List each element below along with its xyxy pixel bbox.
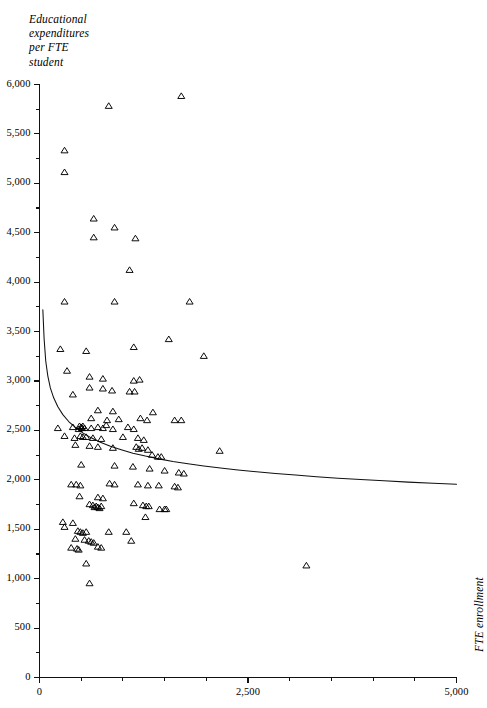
data-point-marker bbox=[115, 416, 122, 422]
data-point-marker bbox=[186, 298, 193, 304]
data-point-marker bbox=[81, 537, 88, 543]
y-tick-label: 1,000 bbox=[0, 572, 31, 583]
data-point-marker bbox=[90, 215, 97, 221]
y-tick-label: 3,000 bbox=[0, 374, 31, 385]
data-point-marker bbox=[88, 415, 95, 421]
data-point-marker bbox=[119, 434, 126, 440]
data-point-marker bbox=[86, 384, 93, 390]
y-tick-label: 5,000 bbox=[0, 176, 31, 187]
data-point-marker bbox=[105, 529, 112, 535]
data-point-marker bbox=[54, 425, 61, 431]
data-point-marker bbox=[86, 443, 93, 449]
data-point-marker bbox=[98, 436, 105, 442]
data-point-marker bbox=[109, 426, 116, 432]
data-point-marker bbox=[83, 560, 90, 566]
y-tick-label: 2,000 bbox=[0, 473, 31, 484]
data-point-marker bbox=[200, 353, 207, 359]
data-point-marker bbox=[216, 448, 223, 454]
data-point-marker bbox=[61, 433, 68, 439]
data-point-marker bbox=[155, 482, 162, 488]
data-point-marker bbox=[77, 482, 84, 488]
data-point-marker bbox=[57, 346, 64, 352]
data-point-marker bbox=[78, 462, 85, 468]
data-point-marker bbox=[142, 514, 149, 520]
data-point-marker bbox=[165, 336, 172, 342]
data-point-marker bbox=[128, 538, 135, 544]
data-point-marker bbox=[94, 444, 101, 450]
y-tick-label: 500 bbox=[0, 621, 31, 632]
data-point-marker bbox=[111, 224, 118, 230]
data-point-marker bbox=[126, 267, 133, 273]
data-point-marker bbox=[144, 482, 151, 488]
y-tick-label: 1,500 bbox=[0, 522, 31, 533]
y-tick-label: 0 bbox=[0, 671, 31, 682]
data-point-marker bbox=[69, 391, 76, 397]
data-point-marker bbox=[104, 417, 111, 423]
fit-curve-line bbox=[43, 310, 457, 484]
data-point-marker bbox=[171, 417, 178, 423]
data-point-marker bbox=[109, 387, 116, 393]
y-tick-label: 3,500 bbox=[0, 325, 31, 336]
data-point-marker bbox=[99, 385, 106, 391]
data-point-marker bbox=[111, 463, 118, 469]
data-point-marker bbox=[72, 442, 79, 448]
data-point-marker bbox=[111, 298, 118, 304]
data-point-marker bbox=[64, 368, 71, 374]
data-point-marker bbox=[161, 467, 168, 473]
data-point-marker bbox=[61, 147, 68, 153]
data-point-marker bbox=[61, 298, 68, 304]
data-point-marker bbox=[94, 407, 101, 413]
data-point-marker bbox=[136, 377, 143, 383]
fit-curve bbox=[43, 310, 457, 484]
data-point-marker bbox=[88, 425, 95, 431]
data-point-marker bbox=[83, 348, 90, 354]
data-point-marker bbox=[303, 562, 310, 568]
data-point-marker bbox=[131, 388, 138, 394]
data-point-marker bbox=[146, 465, 153, 471]
data-point-marker bbox=[76, 493, 83, 499]
data-point-marker bbox=[129, 464, 136, 470]
data-point-marker bbox=[130, 344, 137, 350]
axes-group bbox=[34, 85, 457, 684]
data-point-marker bbox=[68, 545, 75, 551]
y-tick-label: 6,000 bbox=[0, 78, 31, 89]
data-points-group bbox=[54, 93, 310, 586]
data-point-marker bbox=[130, 500, 137, 506]
x-tick-label: 2,500 bbox=[218, 686, 278, 697]
data-point-marker bbox=[124, 424, 131, 430]
data-point-marker bbox=[90, 234, 97, 240]
data-point-marker bbox=[61, 169, 68, 175]
data-point-marker bbox=[99, 376, 106, 382]
x-tick-label: 0 bbox=[10, 686, 70, 697]
data-point-marker bbox=[137, 415, 144, 421]
data-point-marker bbox=[149, 409, 156, 415]
data-point-marker bbox=[178, 93, 185, 99]
data-point-marker bbox=[86, 374, 93, 380]
data-point-marker bbox=[59, 519, 66, 525]
x-tick-label: 5,000 bbox=[427, 686, 487, 697]
data-point-marker bbox=[73, 481, 80, 487]
data-point-marker bbox=[109, 408, 116, 414]
data-point-marker bbox=[134, 435, 141, 441]
data-point-marker bbox=[144, 417, 151, 423]
y-tick-label: 2,500 bbox=[0, 423, 31, 434]
data-point-marker bbox=[132, 235, 139, 241]
y-tick-label: 4,500 bbox=[0, 226, 31, 237]
data-point-marker bbox=[86, 580, 93, 586]
data-point-marker bbox=[134, 481, 141, 487]
data-point-marker bbox=[69, 520, 76, 526]
data-point-marker bbox=[72, 536, 79, 542]
y-tick-label: 5,500 bbox=[0, 127, 31, 138]
y-tick-label: 4,000 bbox=[0, 275, 31, 286]
data-point-marker bbox=[178, 417, 185, 423]
data-point-marker bbox=[105, 103, 112, 109]
data-point-marker bbox=[123, 529, 130, 535]
